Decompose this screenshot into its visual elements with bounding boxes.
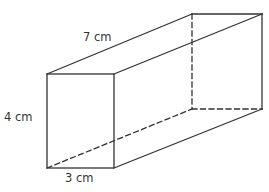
length-label: 7 cm [83,30,112,44]
top-left-receding-edge [47,14,192,74]
hidden-bottom-left-receding-edge [47,109,192,168]
bottom-right-receding-edge [114,109,262,168]
top-right-receding-edge [114,14,262,74]
cuboid-diagram: 7 cm 4 cm 3 cm [0,0,269,192]
width-label: 3 cm [65,171,94,185]
height-label: 4 cm [4,110,33,124]
